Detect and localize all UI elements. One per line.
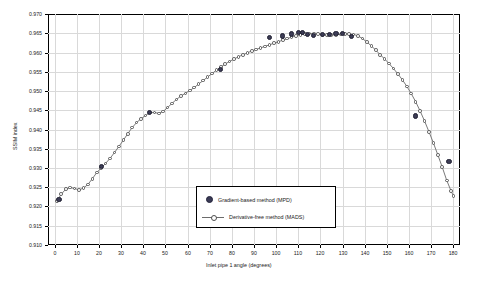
series-line-mads	[0, 0, 483, 296]
data-point-mads	[370, 44, 374, 48]
data-point-mads	[263, 45, 267, 49]
chart-container: 0102030405060708090100110120130140150160…	[0, 0, 483, 296]
data-point-mads	[77, 188, 81, 192]
data-point-mads	[82, 186, 86, 190]
data-point-mpd	[280, 33, 285, 38]
legend-label-derivative-free: Derivative-free method (MADS)	[229, 214, 304, 220]
data-point-mads	[161, 110, 165, 114]
data-point-mads	[405, 85, 409, 89]
data-point-mpd	[446, 159, 451, 164]
legend-label-gradient: Gradient-based method (MPD)	[218, 197, 292, 203]
data-point-mads	[436, 153, 440, 157]
data-point-mpd	[305, 32, 310, 37]
data-point-mads	[449, 189, 453, 193]
data-point-mads	[281, 38, 285, 42]
data-point-mads	[122, 138, 126, 142]
data-point-mads	[277, 40, 281, 44]
data-point-mads	[374, 48, 378, 52]
data-point-mads	[237, 55, 241, 59]
data-point-mads	[188, 89, 192, 93]
data-point-mads	[268, 43, 272, 47]
data-point-mads	[108, 157, 112, 161]
y-axis-title: SSIM index	[12, 122, 18, 150]
data-point-mads	[378, 53, 382, 57]
data-point-mads	[445, 179, 449, 183]
data-point-mads	[432, 141, 436, 145]
data-point-mads	[126, 132, 130, 136]
data-point-mpd	[413, 113, 418, 118]
data-point-mpd	[327, 32, 332, 37]
data-point-mads	[117, 145, 121, 149]
data-point-mpd	[56, 197, 61, 202]
data-point-mads	[91, 177, 95, 181]
data-point-mads	[157, 112, 161, 116]
data-point-mads	[64, 187, 68, 191]
data-point-mpd	[333, 31, 338, 36]
data-point-mads	[396, 72, 400, 76]
open-circle-line-icon	[202, 215, 224, 220]
data-point-mads	[179, 94, 183, 98]
data-point-mads	[170, 102, 174, 106]
data-point-mads	[250, 49, 254, 53]
filled-circle-icon	[206, 196, 213, 203]
data-point-mads	[452, 194, 456, 198]
data-point-mads	[241, 53, 245, 57]
legend-item-derivative-free: Derivative-free method (MADS)	[202, 214, 304, 220]
data-point-mads	[272, 41, 276, 45]
x-axis-title: Inlet pipe 1 angle (degrees)	[206, 262, 272, 268]
data-point-mads	[232, 57, 236, 61]
data-point-mads	[246, 51, 250, 55]
data-point-mads	[139, 117, 143, 121]
data-point-mpd	[289, 31, 294, 36]
data-point-mads	[401, 78, 405, 82]
data-point-mads	[95, 171, 99, 175]
data-point-mads	[418, 109, 422, 113]
data-point-mads	[86, 183, 90, 187]
data-point-mads	[254, 48, 258, 52]
data-point-mads	[356, 34, 360, 38]
data-point-mads	[365, 40, 369, 44]
data-point-mads	[223, 62, 227, 66]
legend: Gradient-based method (MPD) Derivative-f…	[196, 186, 336, 228]
legend-item-gradient: Gradient-based method (MPD)	[206, 196, 292, 203]
data-point-mads	[427, 130, 431, 134]
